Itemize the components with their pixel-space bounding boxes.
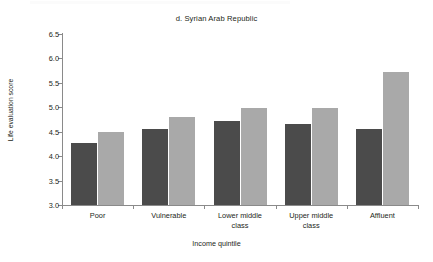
plot-area: 3.03.54.04.55.05.56.06.5 [62,34,418,205]
bar [312,108,338,205]
bar [71,143,97,205]
bar [383,72,409,205]
y-axis-tick-label: 5.5 [49,78,59,87]
x-axis-category-label: Affluent [347,211,418,221]
y-axis-tick-label: 4.0 [49,152,59,161]
bar-group [142,34,195,205]
x-axis-line [62,205,419,206]
bar [142,129,168,205]
y-axis-tick-label: 6.0 [49,54,59,63]
x-axis-tick-mark [276,205,277,209]
x-axis-category-label: Upper middleclass [276,211,347,230]
x-axis-tick-mark [62,205,63,209]
bar [285,124,311,205]
bar-group [356,34,409,205]
bar [98,132,124,205]
x-axis-tick-mark [204,205,205,209]
scan-artifact [30,1,290,4]
y-axis-title-label: Life evaluation score [7,79,14,141]
y-axis-tick-label: 3.0 [49,201,59,210]
x-axis-tick-mark [418,205,419,209]
x-axis-category-label: Poor [62,211,133,221]
y-axis-tick-label: 3.5 [49,176,59,185]
bar-group [71,34,124,205]
y-axis-tick-label: 5.0 [49,103,59,112]
x-axis-title: Income quintile [0,239,433,248]
bar-group [214,34,267,205]
x-axis-category-label: Lower middleclass [204,211,275,230]
chart-title: d. Syrian Arab Republic [0,14,433,23]
y-axis-tick-label: 4.5 [49,127,59,136]
bar-group [285,34,338,205]
bar [356,129,382,205]
bar [241,108,267,205]
x-axis-category-label: Vulnerable [133,211,204,221]
chart-figure: d. Syrian Arab Republic Life evaluation … [0,0,433,262]
bar [169,117,195,205]
x-axis-tick-mark [133,205,134,209]
y-axis-title: Life evaluation score [5,50,15,170]
x-axis-tick-mark [347,205,348,209]
bar [214,121,240,205]
y-axis-tick-label: 6.5 [49,30,59,39]
